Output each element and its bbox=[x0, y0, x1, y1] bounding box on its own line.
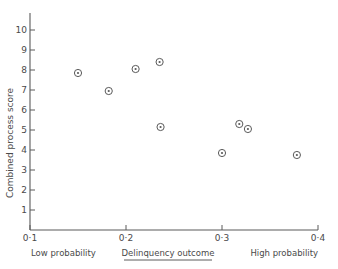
data-point-center bbox=[108, 90, 110, 92]
data-point bbox=[244, 125, 251, 132]
plot-canvas: Combined process score 12345678910 0·10·… bbox=[0, 0, 338, 269]
data-point bbox=[236, 120, 243, 127]
data-point-center bbox=[159, 126, 161, 128]
y-tick-label: 9 bbox=[21, 45, 27, 55]
data-point-group bbox=[74, 58, 300, 158]
x-tick-label: 0·1 bbox=[23, 233, 37, 243]
data-point bbox=[132, 65, 139, 72]
data-point-center bbox=[238, 123, 240, 125]
data-point-center bbox=[296, 154, 298, 156]
x-tick-label: 0·3 bbox=[215, 233, 229, 243]
data-point bbox=[218, 149, 225, 156]
y-tick-label: 10 bbox=[16, 25, 28, 35]
y-tick-label: 6 bbox=[21, 105, 27, 115]
scatter-plot-figure: Combined process score 12345678910 0·10·… bbox=[0, 0, 338, 269]
x-axis-right-caption: High probability bbox=[250, 248, 318, 258]
data-point bbox=[293, 151, 300, 158]
y-tick-label: 5 bbox=[21, 125, 27, 135]
y-axis-ticks: 12345678910 bbox=[16, 25, 35, 215]
y-tick-label: 4 bbox=[21, 145, 27, 155]
x-tick-label: 0·4 bbox=[311, 233, 326, 243]
y-tick-label: 8 bbox=[21, 65, 27, 75]
x-tick-label: 0·2 bbox=[119, 233, 133, 243]
x-axis-ticks: 0·10·20·30·4 bbox=[23, 225, 326, 243]
data-point-center bbox=[77, 72, 79, 74]
data-point bbox=[157, 123, 164, 130]
data-point bbox=[74, 69, 81, 76]
data-point bbox=[105, 87, 112, 94]
data-point-center bbox=[247, 128, 249, 130]
x-axis-center-caption: Delinquency outcome bbox=[122, 248, 215, 258]
y-tick-label: 2 bbox=[21, 185, 27, 195]
data-point bbox=[156, 58, 163, 65]
y-tick-label: 3 bbox=[21, 165, 27, 175]
y-tick-label: 7 bbox=[21, 85, 27, 95]
data-point-center bbox=[221, 152, 223, 154]
data-point-center bbox=[159, 61, 161, 63]
data-point-center bbox=[135, 68, 137, 70]
y-axis-title: Combined process score bbox=[5, 87, 15, 198]
y-tick-label: 1 bbox=[21, 205, 27, 215]
x-axis-left-caption: Low probability bbox=[31, 248, 96, 258]
